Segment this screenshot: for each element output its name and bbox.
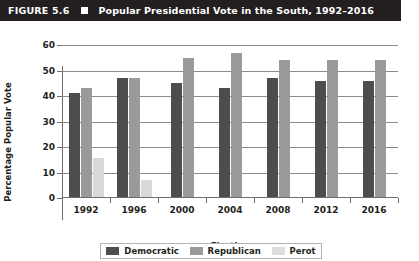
x-axis-tick xyxy=(302,198,303,203)
x-axis-tick-label: 2016 xyxy=(361,205,386,215)
bar-group xyxy=(350,45,398,198)
bar-democratic-2004 xyxy=(219,88,230,198)
bar-democratic-1996 xyxy=(117,78,128,198)
legend-item: Republican xyxy=(190,246,261,256)
bar-democratic-2000 xyxy=(171,83,182,198)
bar-republican-2004 xyxy=(231,53,242,198)
x-axis-tick-label: 2012 xyxy=(313,205,338,215)
bar-group xyxy=(302,45,350,198)
bar-republican-2012 xyxy=(327,60,338,198)
bar-group xyxy=(206,45,254,198)
x-axis-tick xyxy=(350,198,351,203)
bar-democratic-2012 xyxy=(315,81,326,198)
filled-square-icon xyxy=(81,7,88,14)
perot-swatch xyxy=(272,247,285,255)
y-axis-tick-label: 50 xyxy=(42,66,55,76)
democratic-swatch xyxy=(106,247,119,255)
bar-democratic-2016 xyxy=(363,81,374,198)
x-axis-tick xyxy=(254,198,255,203)
y-axis-title: Percentage Popular Vote xyxy=(3,82,13,201)
x-axis-tick xyxy=(158,198,159,203)
legend-item: Perot xyxy=(272,246,316,256)
legend-label: Perot xyxy=(290,246,316,256)
bar-democratic-1992 xyxy=(69,93,80,198)
bar-democratic-2008 xyxy=(267,78,278,198)
bar-perot-1992 xyxy=(93,158,104,198)
republican-swatch xyxy=(190,247,203,255)
y-axis-tick-label: 60 xyxy=(42,40,55,50)
x-axis-tick-label: 2008 xyxy=(265,205,290,215)
bar-group xyxy=(62,45,110,198)
figure-title: Popular Presidential Vote in the South, … xyxy=(98,5,373,16)
x-axis-line xyxy=(62,197,398,198)
bar-group xyxy=(110,45,158,198)
x-axis-tick xyxy=(62,198,63,203)
x-axis-tick-label: 2000 xyxy=(169,205,194,215)
legend-item: Democratic xyxy=(106,246,179,256)
figure-number: FIGURE 5.6 xyxy=(8,5,69,16)
y-axis-tick-label: 0 xyxy=(49,193,55,203)
figure-header: FIGURE 5.6 Popular Presidential Vote in … xyxy=(0,0,401,21)
bar-republican-1992 xyxy=(81,88,92,198)
x-axis-tick xyxy=(110,198,111,203)
x-axis-tick xyxy=(398,198,399,203)
bar-republican-1996 xyxy=(129,78,140,198)
plot-area: 0102030405060 19921996200020042008201220… xyxy=(62,45,398,198)
y-axis-tick-label: 30 xyxy=(42,117,55,127)
bar-republican-2016 xyxy=(375,60,386,198)
x-axis-tick-label: 2004 xyxy=(217,205,242,215)
y-axis-tick-label: 40 xyxy=(42,91,55,101)
legend-label: Republican xyxy=(208,246,261,256)
x-axis-tick-label: 1992 xyxy=(73,205,98,215)
bar-group xyxy=(254,45,302,198)
bar-republican-2000 xyxy=(183,58,194,198)
y-axis-tick-label: 20 xyxy=(42,142,55,152)
chart-legend: DemocraticRepublicanPerot xyxy=(100,243,322,259)
x-axis-tick-label: 1996 xyxy=(121,205,146,215)
x-axis-tick xyxy=(206,198,207,203)
y-axis-tick-label: 10 xyxy=(42,168,55,178)
bar-republican-2008 xyxy=(279,60,290,198)
legend-label: Democratic xyxy=(124,246,179,256)
chart-area: Percentage Popular Vote 0102030405060 19… xyxy=(0,21,419,261)
bar-group xyxy=(158,45,206,198)
bar-perot-1996 xyxy=(141,180,152,198)
